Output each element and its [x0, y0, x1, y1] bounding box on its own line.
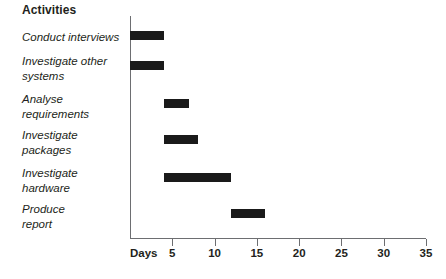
- x-axis-tick-label: 25: [335, 247, 348, 259]
- x-axis-tick: [172, 239, 173, 246]
- gantt-bar: [231, 209, 265, 218]
- gantt-bar: [164, 135, 198, 144]
- x-axis-tick-label: 5: [169, 247, 175, 259]
- activity-label: Conduct interviews: [22, 30, 134, 45]
- gantt-bar: [130, 61, 164, 70]
- page-title: Activities: [22, 3, 76, 17]
- y-axis-line: [130, 16, 131, 238]
- x-axis-tick: [257, 239, 258, 246]
- x-axis-tick-label: 15: [250, 247, 263, 259]
- gantt-bar: [164, 173, 232, 182]
- gantt-bar: [130, 31, 164, 40]
- x-axis-tick-label: 10: [208, 247, 221, 259]
- x-axis-tick-label: 30: [377, 247, 390, 259]
- x-axis-tick: [215, 239, 216, 246]
- activity-label: Investigate hardware: [22, 166, 134, 196]
- activity-label: Investigate packages: [22, 128, 134, 158]
- x-axis-tick: [426, 239, 427, 246]
- x-axis-tick: [341, 239, 342, 246]
- x-axis-tick-label: 20: [293, 247, 306, 259]
- activity-label: Analyse requirements: [22, 92, 134, 122]
- gantt-chart: Activities Conduct interviewsInvestigate…: [0, 0, 446, 279]
- x-axis-tick: [384, 239, 385, 246]
- x-axis-line: [130, 238, 426, 239]
- activity-label: Investigate other systems: [22, 54, 134, 84]
- x-axis-tick-label: 35: [420, 247, 433, 259]
- x-axis-title: Days: [130, 247, 158, 259]
- gantt-bar: [164, 99, 189, 108]
- x-axis-tick: [299, 239, 300, 246]
- activity-label: Produce report: [22, 202, 134, 232]
